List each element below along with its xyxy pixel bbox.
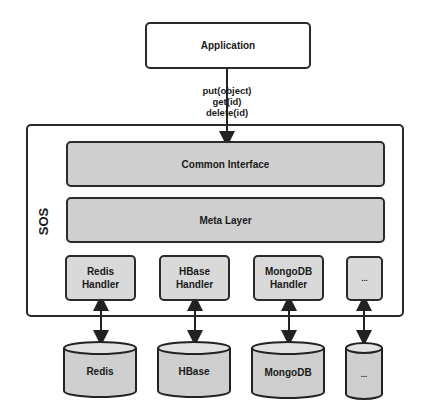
api-delete: delete(id) (187, 107, 267, 118)
api-put: put(object) (187, 85, 267, 96)
sos-label: SOS (32, 206, 56, 236)
hbase-store-label: HBase (158, 366, 230, 377)
mongodb-handler: MongoDB Handler (253, 255, 324, 301)
hbase-handler: HBase Handler (159, 255, 230, 301)
other-store-label: ... (346, 370, 382, 379)
mongodb-store-label: MongoDB (252, 367, 324, 378)
other-handler: ... (346, 256, 383, 301)
redis-store-label: Redis (64, 366, 136, 377)
api-get: get(id) (187, 96, 267, 107)
meta-layer: Meta Layer (66, 197, 385, 243)
application-label: Application (201, 39, 255, 52)
redis-handler: Redis Handler (65, 255, 136, 301)
api-calls: put(object) get(id) delete(id) (187, 85, 267, 118)
application-box: Application (145, 22, 311, 69)
common-interface-layer: Common Interface (66, 141, 385, 187)
